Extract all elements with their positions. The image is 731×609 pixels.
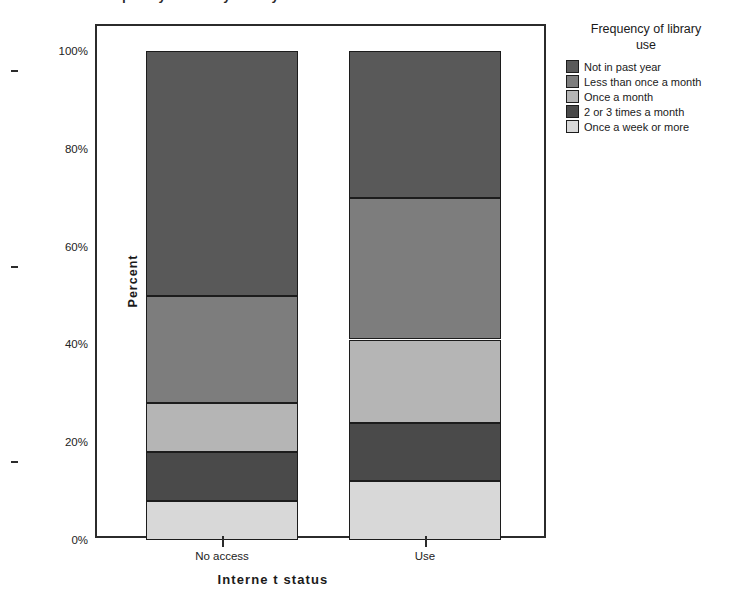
bar-segment — [146, 296, 298, 404]
legend-swatch-icon — [566, 105, 579, 118]
bar-segment — [146, 51, 298, 296]
legend-swatch-icon — [566, 75, 579, 88]
bar-segment — [146, 403, 298, 452]
chart-canvas: Frequency of library use by Internet sta… — [0, 0, 731, 609]
legend-swatch-icon — [566, 90, 579, 103]
x-axis-tick-label: Use — [415, 550, 435, 562]
bar-segment — [146, 452, 298, 501]
bar-segment — [349, 423, 501, 482]
bar-no-access — [146, 51, 298, 540]
bar-segment — [349, 51, 501, 198]
legend-item-label: 2 or 3 times a month — [584, 106, 684, 118]
y-axis-tick-label: 60% — [18, 241, 97, 253]
bar-segment — [349, 198, 501, 340]
y-axis-tick-label: 20% — [18, 436, 97, 448]
legend-item: Once a week or more — [566, 120, 726, 133]
legend-item: Once a month — [566, 90, 726, 103]
y-axis-tick-mark — [11, 461, 18, 463]
legend-swatch-icon — [566, 60, 579, 73]
y-axis-tick-label: 80% — [18, 143, 97, 155]
x-axis-tick-mark — [222, 536, 224, 547]
legend-item: Not in past year — [566, 60, 726, 73]
x-axis-title: Interne t status — [0, 572, 546, 587]
legend-item-label: Once a week or more — [584, 121, 689, 133]
bar-segment — [349, 340, 501, 423]
plot-area: Percent 0%20%40%60%80%100%No accessUse — [95, 24, 546, 538]
legend: Frequency of library use Not in past yea… — [566, 22, 726, 135]
y-axis-tick-label: 40% — [18, 338, 97, 350]
x-axis-tick-mark — [425, 536, 427, 547]
legend-item-label: Not in past year — [584, 61, 661, 73]
legend-item: 2 or 3 times a month — [566, 105, 726, 118]
legend-items: Not in past yearLess than once a monthOn… — [566, 60, 726, 133]
y-axis-tick-mark — [11, 266, 18, 268]
legend-title: Frequency of library use — [566, 22, 726, 53]
bar-segment — [146, 501, 298, 540]
legend-title-line1: Frequency of library — [591, 22, 701, 36]
legend-item-label: Less than once a month — [584, 76, 701, 88]
y-axis-tick-label: 0% — [18, 534, 97, 546]
y-axis-title: Percent — [126, 255, 140, 308]
legend-title-line2: use — [636, 38, 656, 52]
bar-use — [349, 51, 501, 540]
legend-swatch-icon — [566, 120, 579, 133]
bar-segment — [349, 481, 501, 540]
y-axis-tick-mark — [11, 70, 18, 72]
x-axis-tick-label: No access — [195, 550, 249, 562]
y-axis-tick-label: 100% — [18, 45, 97, 57]
legend-item-label: Once a month — [584, 91, 653, 103]
legend-item: Less than once a month — [566, 75, 726, 88]
chart-title: Frequency of library use by Internet sta… — [96, 0, 516, 4]
